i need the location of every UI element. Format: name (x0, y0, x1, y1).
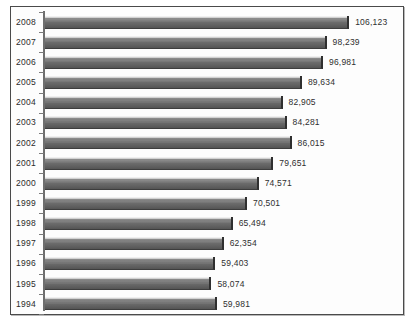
category-label-1997: 1997 (11, 239, 41, 248)
bar-row[interactable]: 200179,651 (11, 157, 403, 170)
bar-2000[interactable] (45, 177, 259, 190)
bar-row[interactable]: 199659,403 (11, 257, 403, 270)
category-label-1995: 1995 (11, 280, 41, 289)
bar-fill (45, 116, 287, 129)
axis-tick (39, 93, 44, 94)
bar-fill (45, 177, 259, 190)
bar-row[interactable]: 199970,501 (11, 197, 403, 210)
bar-fill (45, 197, 247, 210)
bar-row[interactable]: 2008106,123 (11, 16, 403, 29)
category-label-2007: 2007 (11, 38, 41, 47)
bar-fill (45, 136, 292, 149)
value-label-2007: 98,239 (333, 38, 360, 47)
bar-row[interactable]: 199558,074 (11, 277, 403, 290)
category-label-1998: 1998 (11, 219, 41, 228)
category-label-2001: 2001 (11, 159, 41, 168)
axis-tick (39, 254, 44, 255)
value-label-1996: 59,403 (221, 259, 248, 268)
bar-fill (45, 277, 211, 290)
bar-fill (45, 257, 215, 270)
axis-tick (39, 52, 44, 53)
category-label-1996: 1996 (11, 259, 41, 268)
bar-fill (45, 237, 224, 250)
axis-tick (39, 32, 44, 33)
bar-fill (45, 16, 349, 29)
value-label-2002: 86,015 (298, 139, 325, 148)
bar-fill (45, 297, 217, 310)
bar-2003[interactable] (45, 116, 287, 129)
bar-fill (45, 36, 327, 49)
bar-row[interactable]: 200286,015 (11, 136, 403, 149)
value-label-2008: 106,123 (355, 18, 387, 27)
bar-fill (45, 96, 283, 109)
category-label-1999: 1999 (11, 199, 41, 208)
bar-2002[interactable] (45, 136, 292, 149)
axis-tick (39, 173, 44, 174)
bar-1997[interactable] (45, 237, 224, 250)
axis-tick (39, 72, 44, 73)
value-label-1994: 59,981 (223, 300, 250, 309)
bar-1998[interactable] (45, 217, 233, 230)
bar-row[interactable]: 199865,494 (11, 217, 403, 230)
value-label-2000: 74,571 (265, 179, 292, 188)
bar-2008[interactable] (45, 16, 349, 29)
category-label-1994: 1994 (11, 300, 41, 309)
category-label-2004: 2004 (11, 98, 41, 107)
category-label-2006: 2006 (11, 58, 41, 67)
bar-1995[interactable] (45, 277, 211, 290)
axis-tick (39, 12, 44, 13)
bar-row[interactable]: 200798,239 (11, 36, 403, 49)
bar-row[interactable]: 199762,354 (11, 237, 403, 250)
bar-2004[interactable] (45, 96, 283, 109)
bar-fill (45, 157, 273, 170)
axis-tick (39, 234, 44, 235)
bar-1999[interactable] (45, 197, 247, 210)
bar-1996[interactable] (45, 257, 215, 270)
bar-fill (45, 76, 302, 89)
value-label-1997: 62,354 (230, 239, 257, 248)
category-label-2003: 2003 (11, 118, 41, 127)
bar-2006[interactable] (45, 56, 323, 69)
bar-row[interactable]: 200589,634 (11, 76, 403, 89)
bar-2005[interactable] (45, 76, 302, 89)
bar-2001[interactable] (45, 157, 273, 170)
bar-row[interactable]: 200384,281 (11, 116, 403, 129)
bar-fill (45, 217, 233, 230)
axis-tick (39, 133, 44, 134)
bar-fill (45, 56, 323, 69)
axis-tick (39, 113, 44, 114)
category-label-2005: 2005 (11, 78, 41, 87)
axis-tick (39, 213, 44, 214)
axis-tick (39, 153, 44, 154)
bar-row[interactable]: 200074,571 (11, 177, 403, 190)
value-label-1995: 58,074 (217, 280, 244, 289)
bar-row[interactable]: 200482,905 (11, 96, 403, 109)
value-label-2001: 79,651 (279, 159, 306, 168)
bar-row[interactable]: 199459,981 (11, 297, 403, 310)
value-label-2005: 89,634 (308, 78, 335, 87)
chart-frame: 2008106,123200798,239200696,981200589,63… (10, 6, 404, 315)
plot-area: 2008106,123200798,239200696,981200589,63… (11, 7, 403, 314)
category-label-2008: 2008 (11, 18, 41, 27)
axis-tick (39, 294, 44, 295)
axis-tick (39, 193, 44, 194)
bar-2007[interactable] (45, 36, 327, 49)
value-label-1999: 70,501 (253, 199, 280, 208)
value-label-2006: 96,981 (329, 58, 356, 67)
category-label-2002: 2002 (11, 139, 41, 148)
axis-tick (39, 274, 44, 275)
category-label-2000: 2000 (11, 179, 41, 188)
value-label-2004: 82,905 (289, 98, 316, 107)
axis-tick (39, 314, 44, 315)
bar-row[interactable]: 200696,981 (11, 56, 403, 69)
value-label-2003: 84,281 (293, 118, 320, 127)
value-label-1998: 65,494 (239, 219, 266, 228)
bar-1994[interactable] (45, 297, 217, 310)
